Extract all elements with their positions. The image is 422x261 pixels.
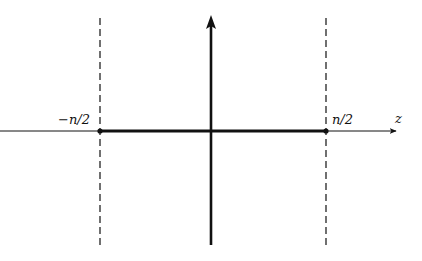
- left-boundary-label: −n/2: [58, 112, 90, 127]
- horizontal-axis-label: z: [394, 111, 402, 126]
- right-boundary-label: n/2: [332, 112, 353, 127]
- interval-diagram: −n/2 n/2 z: [0, 0, 422, 261]
- left-endpoint-dot: [97, 128, 102, 133]
- right-endpoint-dot: [323, 128, 328, 133]
